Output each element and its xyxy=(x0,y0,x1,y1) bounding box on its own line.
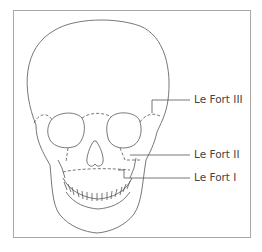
label-le-fort-i: Le Fort I xyxy=(194,171,236,183)
le-fort-i-leader xyxy=(118,170,190,178)
label-le-fort-ii: Le Fort II xyxy=(194,148,240,160)
right-orbit xyxy=(107,113,141,148)
ramus-left xyxy=(58,160,65,178)
label-le-fort-iii: Le Fort III xyxy=(194,93,243,105)
right-temple xyxy=(146,132,157,160)
nasal-aperture xyxy=(87,141,103,166)
mandible-outline xyxy=(50,160,146,233)
le-fort-iii-leader xyxy=(152,100,190,113)
skull-illustration xyxy=(0,0,262,252)
ramus-right xyxy=(130,158,136,178)
left-orbit xyxy=(48,113,85,148)
